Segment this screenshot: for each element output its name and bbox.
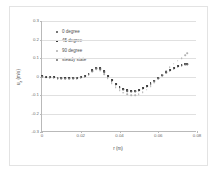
data-point: [185, 54, 187, 56]
data-point: [150, 83, 152, 85]
data-point: [181, 65, 183, 67]
y-tick-mark: [40, 58, 42, 59]
data-point: [134, 91, 136, 93]
x-axis-label: r (m): [113, 147, 123, 152]
data-point: [181, 57, 183, 59]
data-point: [80, 76, 82, 78]
data-point: [103, 73, 105, 75]
gridline: [42, 95, 196, 96]
data-point: [142, 88, 144, 90]
data-point: [130, 91, 132, 93]
data-point: [146, 89, 148, 91]
data-point: [187, 63, 189, 65]
y-tick-label: 0: [37, 74, 39, 78]
y-tick-label: -0.1: [31, 93, 39, 97]
y-tick-mark: [40, 114, 42, 115]
data-point: [134, 94, 136, 96]
data-point: [88, 73, 90, 75]
data-point: [107, 78, 109, 80]
data-point: [111, 80, 113, 82]
data-point: [142, 92, 144, 94]
y-tick-mark: [40, 21, 42, 22]
data-point: [177, 66, 179, 68]
data-point: [84, 75, 86, 77]
data-point: [72, 78, 74, 80]
data-point: [138, 93, 140, 95]
y-tick-label: 0.2: [33, 37, 39, 41]
data-point: [146, 86, 148, 88]
data-point: [161, 75, 163, 77]
data-point: [119, 87, 121, 89]
x-tick-label: 0.08: [193, 134, 202, 138]
x-tick-mark: [197, 131, 198, 133]
data-point: [157, 78, 159, 80]
data-point: [187, 52, 189, 54]
data-point: [115, 84, 117, 86]
data-point: [123, 89, 125, 91]
x-tick-mark: [158, 131, 159, 133]
data-point: [169, 66, 171, 68]
gridline: [42, 114, 196, 115]
data-point: [92, 70, 94, 72]
data-point: [130, 94, 132, 96]
data-point: [169, 70, 171, 72]
data-point: [95, 67, 97, 69]
x-tick-label: 0.02: [76, 134, 85, 138]
data-point: [45, 76, 47, 78]
data-point: [177, 60, 179, 62]
data-point: [154, 81, 156, 83]
y-tick-mark: [40, 95, 42, 96]
gridline: [42, 58, 196, 59]
data-point: [123, 92, 125, 94]
data-point: [61, 78, 63, 80]
y-tick-mark: [40, 40, 42, 41]
y-tick-label: -0.2: [31, 111, 39, 115]
x-tick-label: 0.04: [115, 134, 124, 138]
x-tick-mark: [81, 131, 82, 133]
data-point: [138, 90, 140, 92]
chart-figure: 0 degree45 degree90 degreesteady state 0…: [9, 6, 208, 166]
y-tick-label: 0.1: [33, 56, 39, 60]
plot-area: 0.30.20.10-0.1-0.2-0.3 00.020.040.060.08: [41, 21, 196, 132]
x-tick-label: 0: [41, 134, 43, 138]
data-point: [64, 78, 66, 80]
data-point: [165, 72, 167, 74]
data-point: [76, 77, 78, 79]
data-point: [119, 89, 121, 91]
y-tick-label: -0.3: [31, 130, 39, 134]
y-tick-label: 0.3: [33, 19, 39, 23]
data-point: [111, 82, 113, 84]
data-point: [173, 68, 175, 70]
data-point: [126, 93, 128, 95]
data-point: [49, 76, 51, 78]
data-point: [41, 76, 43, 78]
gridline: [42, 21, 196, 22]
data-point: [57, 77, 59, 79]
x-tick-label: 0.06: [154, 134, 163, 138]
data-point: [99, 70, 101, 72]
data-point: [103, 71, 105, 73]
x-tick-mark: [120, 131, 121, 133]
data-point: [173, 63, 175, 65]
gridline: [42, 40, 196, 41]
data-point: [115, 86, 117, 88]
x-tick-mark: [42, 131, 43, 133]
data-point: [107, 76, 109, 78]
data-point: [150, 86, 152, 88]
y-axis-label: uz (m/s): [17, 69, 23, 85]
data-point: [53, 77, 55, 79]
data-point: [68, 78, 70, 80]
data-point: [126, 90, 128, 92]
data-point: [99, 68, 101, 70]
